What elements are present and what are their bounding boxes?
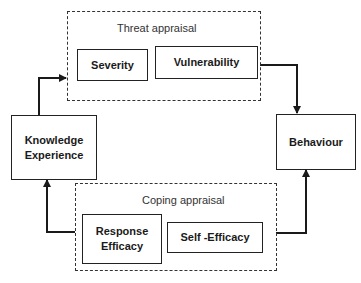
experience-label: Experience [25, 148, 84, 163]
behaviour-label: Behaviour [289, 135, 343, 150]
self-efficacy-label: Self -Efficacy [180, 230, 249, 245]
efficacy-label: Efficacy [101, 239, 143, 254]
response-label: Response [96, 224, 149, 239]
knowledge-experience-box: Knowledge Experience [11, 115, 97, 180]
vulnerability-box: Vulnerability [155, 46, 258, 79]
behaviour-box: Behaviour [276, 114, 356, 170]
arrow-coping-to-knowledge [47, 180, 75, 232]
arrow-coping-to-behaviour [276, 170, 306, 233]
threat-appraisal-label: Threat appraisal [117, 22, 197, 34]
vulnerability-label: Vulnerability [174, 55, 240, 70]
knowledge-label: Knowledge [25, 133, 84, 148]
arrow-knowledge-to-threat [39, 78, 66, 115]
severity-label: Severity [91, 58, 134, 73]
severity-box: Severity [77, 49, 148, 81]
self-efficacy-box: Self -Efficacy [167, 222, 263, 253]
coping-appraisal-label: Coping appraisal [142, 194, 225, 206]
response-efficacy-box: Response Efficacy [82, 214, 162, 264]
arrow-threat-to-behaviour [260, 65, 297, 113]
